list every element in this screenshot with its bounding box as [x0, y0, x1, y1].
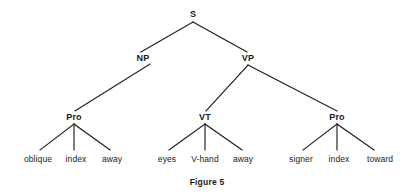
leaf-toward: toward — [367, 155, 393, 164]
node-s: S — [188, 10, 197, 19]
node-pro-right: Pro — [328, 113, 347, 122]
leaf-v-hand: V-hand — [191, 155, 219, 164]
leaf-index-2: index — [329, 155, 350, 164]
node-vp: VP — [240, 54, 255, 63]
leaf-eyes: eyes — [158, 155, 176, 164]
node-vt: VT — [198, 113, 213, 122]
syntax-tree-nodes: S NP VP Pro VT Pro oblique index away ey… — [0, 0, 412, 193]
leaf-away-2: away — [233, 155, 253, 164]
node-np: NP — [135, 54, 151, 63]
leaf-index-1: index — [66, 155, 87, 164]
leaf-away-1: away — [102, 155, 122, 164]
leaf-oblique: oblique — [24, 155, 52, 164]
leaf-signer: signer — [289, 155, 313, 164]
node-pro-left: Pro — [65, 113, 84, 122]
figure-caption: Figure 5 — [190, 178, 225, 187]
